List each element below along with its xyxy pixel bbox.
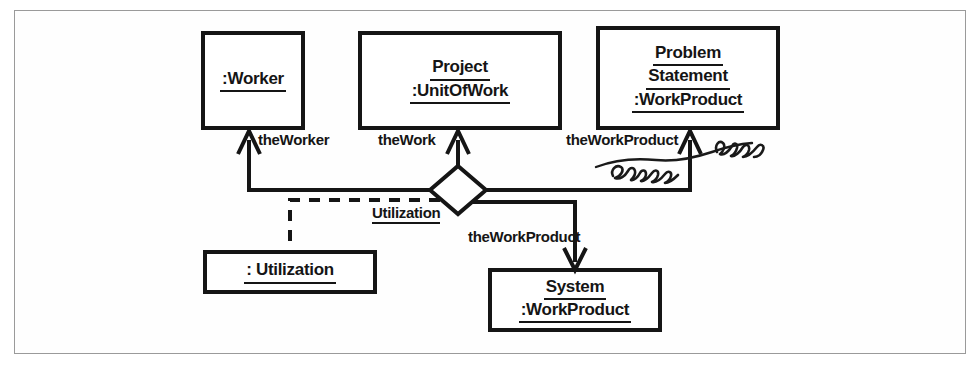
- edge-label-thework: theWork: [378, 131, 436, 148]
- utilization-object-box-outline: [205, 252, 375, 292]
- edge-label-theworkproduct-top: theWorkProduct: [566, 131, 678, 148]
- worker-object-box-outline: [203, 33, 303, 128]
- system-workproduct-object-box-outline: [490, 270, 660, 330]
- diagram-canvas: [0, 0, 980, 368]
- project-unitofwork-object-box-outline: [360, 33, 560, 128]
- edge-label-theworkproduct-bottom: theWorkProduct: [468, 228, 580, 245]
- edge-label-utilization: Utilization: [372, 204, 440, 224]
- uml-diagram-figure: :WorkerProject:UnitOfWorkProblemStatemen…: [0, 0, 980, 368]
- edge-label-theworker: theWorker: [258, 131, 329, 148]
- problem-statement-workproduct-object-box-outline: [598, 28, 778, 128]
- handwriting-word-one: [612, 166, 678, 183]
